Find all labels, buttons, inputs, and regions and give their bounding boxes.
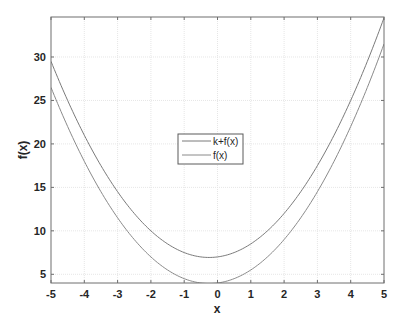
x-tick-label: 5 — [381, 288, 387, 300]
x-tick-label: -1 — [179, 288, 189, 300]
x-tick-label: -3 — [113, 288, 123, 300]
y-tick-label: 25 — [34, 94, 46, 106]
y-tick-label: 5 — [40, 268, 46, 280]
line-chart: -5-4-3-2-1012345 51015202530 x f(x) k+f(… — [0, 0, 406, 331]
x-tick-label: 2 — [281, 288, 287, 300]
x-tick-label: 3 — [314, 288, 320, 300]
x-axis-label: x — [214, 302, 221, 316]
y-tick-label: 20 — [34, 138, 46, 150]
y-tick-label: 15 — [34, 181, 46, 193]
x-tick-label: 4 — [348, 288, 355, 300]
x-tick-label: -5 — [46, 288, 56, 300]
x-tick-label: -2 — [146, 288, 156, 300]
x-tick-label: -4 — [79, 288, 90, 300]
legend-label-kfx: k+f(x) — [213, 136, 238, 147]
legend-label-fx: f(x) — [213, 150, 227, 161]
legend: k+f(x) f(x) — [178, 134, 243, 164]
y-tick-label: 30 — [34, 51, 46, 63]
y-axis-label: f(x) — [16, 141, 30, 160]
y-tick-label: 10 — [34, 225, 46, 237]
x-tick-label: 0 — [214, 288, 220, 300]
x-tick-label: 1 — [248, 288, 254, 300]
